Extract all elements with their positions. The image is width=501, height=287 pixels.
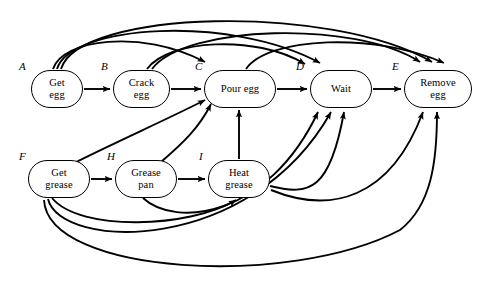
state-label-c: C	[195, 60, 202, 72]
state-label-a: A	[19, 60, 26, 72]
node-get-grease-line2: grease	[45, 179, 72, 191]
node-get-grease-line1: Get	[51, 167, 66, 179]
edge-F-to-D	[48, 112, 331, 232]
node-crack-egg-line1: Crack	[129, 77, 155, 89]
edge-C-to-E	[246, 42, 444, 69]
node-crack-egg-line2: egg	[134, 89, 149, 101]
node-pour-egg[interactable]: Pour egg	[204, 70, 276, 108]
diagram-canvas: Get egg Crack egg Pour egg Wait Remove e…	[0, 0, 501, 287]
edge-layer	[0, 0, 501, 287]
state-label-b: B	[101, 60, 108, 72]
state-label-e: E	[392, 60, 399, 72]
node-get-grease[interactable]: Get grease	[28, 160, 90, 198]
node-get-egg[interactable]: Get egg	[31, 70, 83, 108]
node-wait-line1: Wait	[331, 83, 351, 95]
edge-F-to-C	[74, 100, 205, 163]
node-heat-grease[interactable]: Heat grease	[208, 160, 270, 198]
state-label-i: I	[199, 150, 203, 162]
node-get-egg-line1: Get	[49, 77, 64, 89]
node-crack-egg[interactable]: Crack egg	[113, 70, 170, 108]
state-label-f: F	[19, 150, 26, 162]
node-remove-egg-line1: Remove	[420, 77, 456, 89]
edge-H-to-C	[161, 104, 211, 162]
node-pour-egg-line1: Pour egg	[221, 83, 259, 95]
node-heat-grease-line1: Heat	[229, 167, 249, 179]
node-grease-pan-line1: Grease	[131, 167, 161, 179]
node-remove-egg-line2: egg	[430, 89, 445, 101]
edge-I-to-E	[271, 112, 423, 200]
edge-I-to-D	[270, 112, 344, 190]
node-heat-grease-line2: grease	[225, 179, 252, 191]
state-label-h: H	[107, 150, 115, 162]
node-get-egg-line2: egg	[49, 89, 64, 101]
edge-B-to-E	[152, 33, 420, 69]
state-label-d: D	[296, 60, 304, 72]
node-remove-egg[interactable]: Remove egg	[404, 70, 472, 108]
node-wait[interactable]: Wait	[310, 70, 372, 108]
node-grease-pan-line2: pan	[138, 179, 153, 191]
node-grease-pan[interactable]: Grease pan	[115, 160, 177, 198]
edge-A-to-C	[53, 41, 205, 69]
